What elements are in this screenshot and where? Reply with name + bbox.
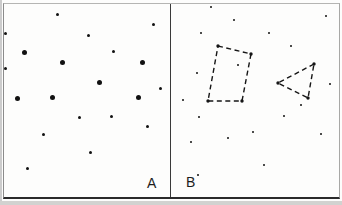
shape-vertex-dot: [306, 96, 309, 99]
shape-vertex-dot: [312, 62, 315, 65]
shape-vertex-dot: [216, 44, 219, 47]
dashed-shapes: [0, 0, 342, 205]
shape-vertex-dot: [249, 52, 252, 55]
panel-b-label: B: [186, 174, 195, 190]
dashed-quadrilateral: [208, 46, 251, 101]
shape-vertex-dot: [276, 81, 279, 84]
dashed-triangle: [278, 64, 314, 98]
panel-a-label: A: [147, 175, 156, 191]
shape-vertex-dot: [240, 99, 243, 102]
figure: A B: [0, 0, 342, 205]
shape-vertex-dot: [206, 99, 209, 102]
